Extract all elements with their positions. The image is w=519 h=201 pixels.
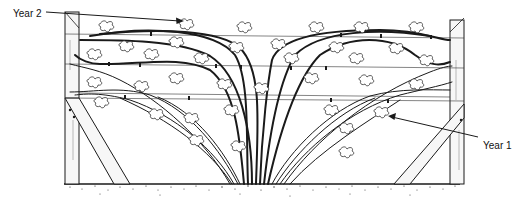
- year1-label: Year 1: [483, 141, 512, 151]
- soil: [64, 184, 460, 197]
- year2-label: Year 2: [13, 9, 42, 19]
- year2-canes: [75, 30, 450, 184]
- trellis-drawing: [0, 0, 519, 201]
- leaves: [87, 19, 434, 158]
- trellis-illustration: Year 2 Year 1: [0, 0, 519, 201]
